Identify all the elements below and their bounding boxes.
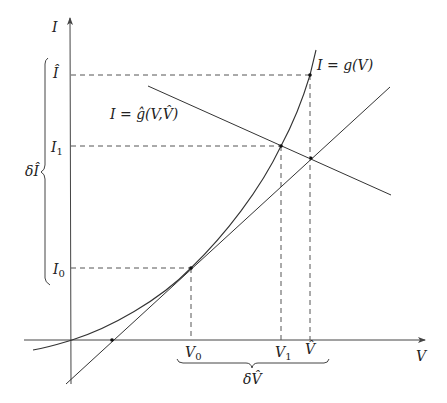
label-v1-sub: 1 [285,351,291,362]
delta-i-brace [41,58,50,285]
label-v-hat: V̂ [305,342,315,356]
label-curve-g-hat: I = ĝ(V,V̂) [110,107,178,121]
x-axis-label: V [416,349,426,363]
label-delta-i: δÎ [25,164,39,178]
label-v0-main: V [185,344,195,360]
label-v1-main: V [275,344,285,360]
label-i1: I1 [51,140,63,157]
label-v0-sub: 0 [195,351,201,362]
label-i0: I0 [53,262,65,279]
y-axis-label: I [52,20,58,34]
y-axis [70,18,71,384]
label-curve-g: I = g(V) [317,58,373,72]
label-i0-sub: 0 [59,268,65,279]
curve-g [33,50,316,350]
dashed-guides [71,75,310,340]
label-v1: V1 [275,345,292,362]
diagram-canvas [0,0,447,403]
g-hat-line [148,86,391,195]
label-i-hat: Î [53,66,59,80]
tangent-line [66,87,390,384]
label-v0: V0 [185,345,202,362]
label-i1-sub: 1 [57,146,63,157]
label-delta-v: δV̂ [243,372,262,386]
